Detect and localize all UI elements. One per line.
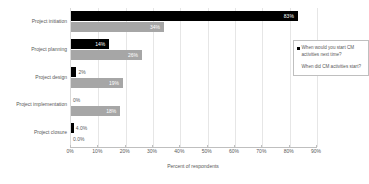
bar-group: 4.0%0.0%: [71, 123, 316, 145]
bar-value-label: 14%: [87, 39, 105, 49]
x-tick-label: 20%: [120, 148, 130, 154]
bar-value-label: 18%: [98, 106, 116, 116]
bar: [71, 67, 76, 77]
bar-value-label: 19%: [101, 78, 119, 88]
bar-group: 14%26%: [71, 39, 316, 61]
legend-swatch-icon: [297, 66, 300, 69]
bar-value-label: 26%: [120, 50, 138, 60]
x-tick-label: 50%: [202, 148, 212, 154]
bar: [71, 123, 74, 133]
x-tick-label: 70%: [256, 148, 266, 154]
legend-entry: When would you start CM activities next …: [297, 45, 365, 58]
x-tick-label: 60%: [229, 148, 239, 154]
x-tick-label: 10%: [92, 148, 102, 154]
bar-value-label: 0.0%: [73, 134, 84, 144]
bar-slot: 0%: [71, 95, 316, 105]
bar: [71, 11, 298, 21]
bar-slot: 19%: [71, 78, 316, 88]
bar-slot: 14%: [71, 39, 316, 49]
x-tick-label: 0%: [66, 148, 73, 154]
y-axis-category-label: Project planning: [31, 46, 67, 53]
y-axis-category-label: Project implementation: [16, 101, 67, 108]
bar-slot: 83%: [71, 11, 316, 21]
bar-group: 83%34%: [71, 11, 316, 33]
gridline: [317, 8, 318, 147]
x-tick-label: 80%: [284, 148, 294, 154]
bar-value-label: 34%: [142, 22, 160, 32]
bar-value-label: 83%: [276, 11, 294, 21]
y-axis-category-label: Project closure: [34, 129, 67, 136]
chart-legend: When would you start CM activities next …: [293, 40, 369, 76]
y-axis-category-labels: Project initiationProject planningProjec…: [0, 8, 67, 147]
bar-value-label: 0%: [73, 95, 80, 105]
bar-slot: 18%: [71, 106, 316, 116]
bar-value-label: 4.0%: [76, 123, 87, 133]
y-axis-category-label: Project initiation: [32, 18, 67, 25]
x-tick-label: 30%: [147, 148, 157, 154]
legend-entry: When did CM activities start?: [297, 64, 365, 71]
x-tick-label: 40%: [174, 148, 184, 154]
legend-label: When did CM activities start?: [302, 64, 361, 71]
bar-slot: 2%: [71, 67, 316, 77]
y-axis-category-label: Project design: [35, 74, 67, 81]
plot-area: 83%34%14%26%2%19%0%18%4.0%0.0% When woul…: [70, 8, 316, 147]
x-axis-ticks: 0%10%20%30%40%50%60%70%80%90%: [70, 148, 316, 158]
bar-slot: 4.0%: [71, 123, 316, 133]
bar-slot: 0.0%: [71, 134, 316, 144]
legend-label: When would you start CM activities next …: [302, 45, 366, 58]
bar-slot: 26%: [71, 50, 316, 60]
bar-slot: 34%: [71, 22, 316, 32]
bar-group: 0%18%: [71, 95, 316, 117]
bar-group: 2%19%: [71, 67, 316, 89]
bar-value-label: 2%: [78, 67, 85, 77]
x-axis-title: Percent of respondents: [70, 163, 316, 169]
legend-swatch-icon: [297, 47, 300, 50]
x-tick-label: 90%: [311, 148, 321, 154]
